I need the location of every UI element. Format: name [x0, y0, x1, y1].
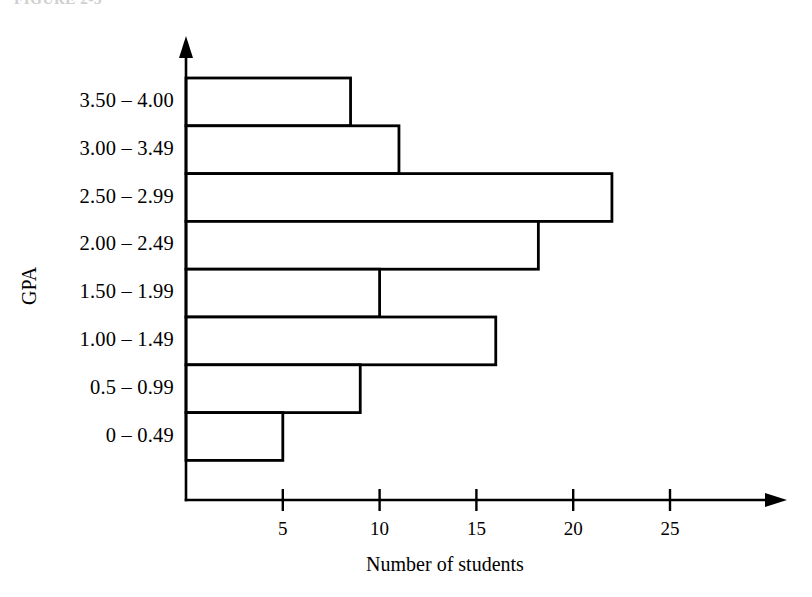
x-axis-title: Number of students	[330, 553, 560, 576]
x-axis-tick-label: 5	[253, 518, 313, 540]
x-axis-tick-label: 25	[640, 518, 700, 540]
bar	[186, 317, 496, 365]
bar	[186, 269, 380, 317]
bars-group	[186, 78, 612, 460]
y-axis-category-label: 1.50 – 1.99	[40, 280, 174, 303]
y-axis-title: GPA	[18, 267, 41, 305]
y-axis-category-label: 3.50 – 4.00	[40, 89, 174, 112]
bar	[186, 413, 283, 461]
y-axis-category-label: 0.5 – 0.99	[40, 376, 174, 399]
bar	[186, 221, 538, 269]
y-axis-category-label: 2.50 – 2.99	[40, 185, 174, 208]
y-axis-category-label: 0 – 0.49	[40, 424, 174, 447]
y-axis-arrow-icon	[179, 36, 193, 58]
y-axis-category-label: 2.00 – 2.49	[40, 232, 174, 255]
y-axis-category-label: 3.00 – 3.49	[40, 137, 174, 160]
figure-root: FIGURE 2-3 510152025 3.50 – 4.003.00 – 3…	[0, 0, 812, 597]
bar	[186, 78, 351, 126]
bar	[186, 365, 360, 413]
x-axis-tick-label: 20	[543, 518, 603, 540]
x-axis-arrow-icon	[765, 493, 787, 507]
x-axis-tick-label: 15	[446, 518, 506, 540]
bar	[186, 126, 399, 174]
x-axis-tick-label: 10	[350, 518, 410, 540]
y-axis-category-label: 1.00 – 1.49	[40, 328, 174, 351]
bar	[186, 174, 612, 222]
